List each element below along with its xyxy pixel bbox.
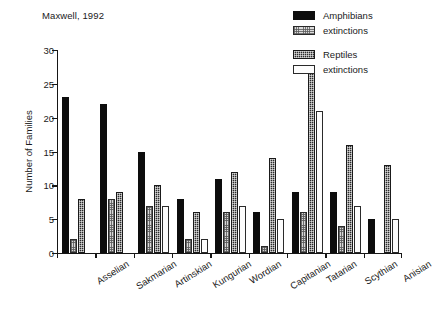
legend-item: extinctions [293,62,420,77]
x-axis-label-kungurian: Kungurian [211,258,254,290]
legend-spacer [293,38,420,47]
legend-swatch-icon [293,26,315,35]
bar [215,179,222,253]
bar [100,104,107,253]
legend-label: Amphibians [323,10,373,21]
y-tick-label: 10 [43,180,54,191]
bar [346,145,353,253]
x-axis-label-asselian: Asselian [95,258,131,286]
bar [354,206,361,253]
bar [193,212,200,253]
bar [146,206,153,253]
chart-title: Maxwell, 1992 [42,10,104,21]
y-tick-label: 5 [49,214,54,225]
bar [162,206,169,253]
y-tick-label: 15 [43,146,54,157]
legend-swatch-icon [293,11,315,20]
y-tick-label: 25 [43,78,54,89]
bar [316,111,323,253]
bar [108,199,115,253]
bar [239,206,246,253]
bar [338,226,345,253]
legend-swatch-icon [293,65,315,74]
bar [253,212,260,253]
bar [277,219,284,253]
x-axis-label-sakmarian: Sakmarian [134,258,178,291]
plot-area: 051015202530 [57,50,402,253]
bar [62,97,69,253]
bar [292,192,299,253]
bar [330,192,337,253]
x-axis-label-scythian: Scythian [363,258,400,287]
bar [78,199,85,253]
x-axis-label-artinskian: Artinskian [172,258,213,289]
y-axis-line [57,50,58,253]
x-axis-labels: AsselianSakmarianArtinskianKungurianWord… [57,258,402,310]
x-axis-label-anisian: Anisian [401,258,433,284]
legend-label: extinctions [323,25,368,36]
bar [269,158,276,253]
bar [308,70,315,253]
bar [231,172,238,253]
bar [70,239,77,253]
bar [223,212,230,253]
bar [154,185,161,253]
y-tick-label: 0 [49,248,54,259]
y-tick-label: 20 [43,112,54,123]
bar [261,246,268,253]
bar [392,219,399,253]
chart-legend: AmphibiansextinctionsReptilesextinctions [293,8,420,77]
bar [201,239,208,253]
legend-item: Reptiles [293,47,420,62]
bar [116,192,123,253]
legend-label: extinctions [323,64,368,75]
y-tick-label: 30 [43,45,54,56]
legend-label: Reptiles [323,49,357,60]
legend-item: Amphibians [293,8,420,23]
bar [300,212,307,253]
bar [368,219,375,253]
bar [384,165,391,253]
y-axis-label: Number of Families [23,82,34,222]
legend-item: extinctions [293,23,420,38]
bar [185,239,192,253]
x-axis-line [57,253,402,254]
x-axis-label-wordian: Wordian [248,258,284,286]
legend-swatch-icon [293,50,315,59]
bar [138,152,145,254]
bar [177,199,184,253]
